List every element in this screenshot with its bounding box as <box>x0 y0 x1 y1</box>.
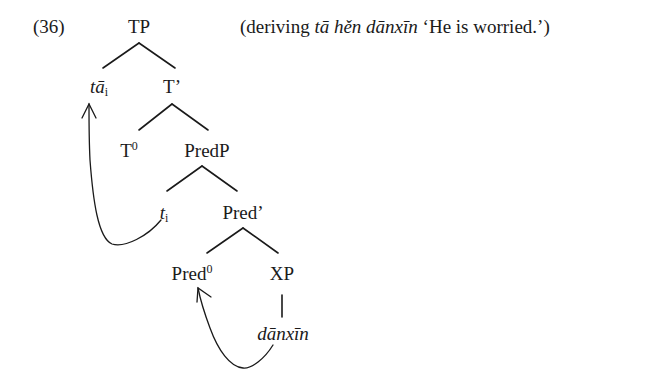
node-pred0-sup: 0 <box>206 262 212 276</box>
node-ta-label: tā <box>90 76 105 97</box>
branch-tp-tbar <box>139 43 175 68</box>
syntax-tree-branches <box>0 0 645 391</box>
node-t-bar: T’ <box>163 77 181 97</box>
node-trace: ti <box>160 203 169 223</box>
movement-arrow-subject <box>89 104 161 245</box>
branch-predp-trace <box>167 166 202 191</box>
node-ta-index: i <box>105 85 108 99</box>
branch-tbar-t0 <box>139 104 172 130</box>
branch-tbar-predp <box>172 104 208 130</box>
branch-predbar-xp <box>243 228 278 253</box>
branch-predp-predbar <box>202 166 237 191</box>
node-t0-sup: 0 <box>132 139 138 153</box>
node-danxin: dānxīn <box>257 324 309 344</box>
node-trace-index: i <box>165 211 168 225</box>
node-pred0-label: Pred <box>172 263 207 284</box>
branch-predbar-pred0 <box>207 228 243 253</box>
node-predp: PredP <box>184 141 229 161</box>
node-t0-label: T <box>120 140 132 161</box>
branch-tp-ta <box>103 43 139 68</box>
node-tp: TP <box>128 17 150 37</box>
node-pred0: Pred0 <box>172 264 213 284</box>
node-xp: XP <box>270 264 294 284</box>
node-pred-bar: Pred’ <box>222 203 263 223</box>
node-ta: tāi <box>90 77 108 97</box>
node-t0: T0 <box>120 141 138 161</box>
